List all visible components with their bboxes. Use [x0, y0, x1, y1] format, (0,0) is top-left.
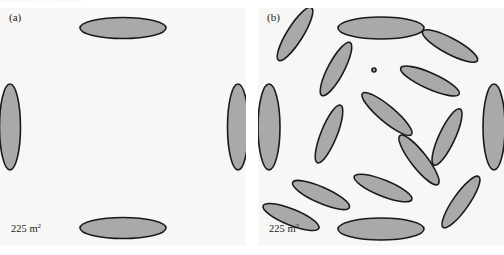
ellipse: [80, 218, 166, 239]
ellipse: [228, 84, 247, 170]
ellipse: [315, 39, 357, 99]
page-bleed-text: . . . . . . . . . . . . . . . . . . . .: [0, 0, 504, 7]
panel-b-area-exponent: 2: [296, 221, 300, 229]
ellipse: [483, 84, 504, 170]
bleed-text-content: . . . . . . . . . . . . . . . . . . . .: [0, 0, 84, 3]
panel-b-area-label: 225 m2: [269, 224, 299, 235]
ellipse: [338, 17, 424, 39]
ellipse: [427, 106, 468, 169]
ellipse: [372, 68, 376, 72]
panel-a: (a) 225 m2: [0, 8, 246, 246]
ellipse: [351, 169, 414, 207]
panel-b: (b) 225 m2: [258, 8, 504, 246]
ellipse: [357, 87, 416, 140]
panel-b-label: (b): [267, 12, 280, 23]
ellipse: [258, 84, 280, 170]
panel-a-ellipses: [0, 18, 246, 239]
panel-b-ellipse-canvas: [258, 8, 504, 246]
scientific-figure: . . . . . . . . . . . . . . . . . . . . …: [0, 0, 504, 255]
panel-b-area-value: 225 m: [269, 223, 296, 234]
ellipse: [289, 175, 352, 215]
panel-b-ellipses: [258, 8, 504, 240]
ellipse: [437, 172, 486, 232]
ellipse: [338, 218, 424, 240]
ellipse: [310, 102, 348, 165]
panel-container: (a) 225 m2 (b) 225 m2: [0, 8, 504, 246]
panel-a-area-label: 225 m2: [11, 224, 41, 235]
panel-a-area-value: 225 m: [11, 223, 38, 234]
ellipse: [0, 84, 21, 170]
ellipse: [80, 18, 166, 39]
panel-a-label: (a): [9, 12, 21, 23]
panel-a-area-exponent: 2: [38, 221, 42, 229]
panel-a-ellipse-canvas: [0, 8, 246, 246]
ellipse: [419, 24, 481, 67]
ellipse: [398, 61, 463, 102]
